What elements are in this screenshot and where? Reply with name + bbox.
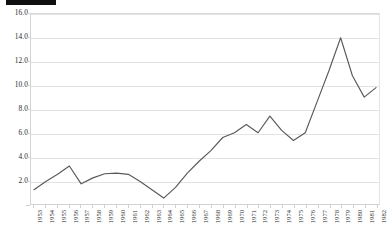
x-tick-mark [128, 205, 129, 208]
x-tick-mark [57, 205, 58, 208]
x-tick-label: 1969 [226, 210, 233, 223]
x-tick-label: 1958 [95, 210, 102, 223]
x-tick-mark [211, 205, 212, 208]
y-tick-label: - [0, 201, 28, 209]
x-tick-mark [377, 205, 378, 208]
x-axis: 1953195419551956195719581959196019611962… [30, 205, 380, 232]
y-tick-label: 12.0 [0, 57, 28, 65]
y-tick-label: 10.0 [0, 81, 28, 89]
x-tick-mark [282, 205, 283, 208]
x-tick-mark [247, 205, 248, 208]
x-tick-mark [187, 205, 188, 208]
x-tick-label: 1956 [72, 210, 79, 223]
x-tick-label: 1965 [178, 210, 185, 223]
x-tick-label: 1980 [356, 210, 363, 223]
x-tick-mark [365, 205, 366, 208]
x-tick-label: 1968 [214, 210, 221, 223]
x-tick-label: 1976 [309, 210, 316, 223]
x-tick-label: 1977 [321, 210, 328, 223]
x-tick-label: 1970 [238, 210, 245, 223]
x-tick-mark [92, 205, 93, 208]
x-tick-mark [116, 205, 117, 208]
x-tick-mark [258, 205, 259, 208]
y-tick-label: 16.0 [0, 9, 28, 17]
x-tick-mark [330, 205, 331, 208]
x-tick-mark [163, 205, 164, 208]
x-tick-label: 1954 [48, 210, 55, 223]
x-tick-label: 1959 [107, 210, 114, 223]
x-tick-mark [306, 205, 307, 208]
x-tick-label: 1972 [261, 210, 268, 223]
x-tick-mark [80, 205, 81, 208]
x-tick-label: 1957 [83, 210, 90, 223]
y-axis: -2.04.06.08.010.012.014.016.0 [0, 0, 28, 232]
data-series-line [31, 14, 379, 204]
x-tick-mark [294, 205, 295, 208]
x-tick-mark [152, 205, 153, 208]
x-tick-mark [104, 205, 105, 208]
y-tick-label: 14.0 [0, 33, 28, 41]
x-tick-mark [318, 205, 319, 208]
series-polyline [34, 38, 376, 198]
y-tick-label: 2.0 [0, 177, 28, 185]
x-tick-label: 1961 [131, 210, 138, 223]
x-tick-mark [33, 205, 34, 208]
x-tick-mark [175, 205, 176, 208]
x-tick-mark [140, 205, 141, 208]
x-tick-mark [270, 205, 271, 208]
x-tick-label: 1964 [166, 210, 173, 223]
x-tick-label: 1982 [380, 210, 387, 223]
y-tick-label: 8.0 [0, 105, 28, 113]
x-tick-label: 1978 [333, 210, 340, 223]
x-tick-label: 1974 [285, 210, 292, 223]
x-tick-label: 1979 [344, 210, 351, 223]
y-tick-label: 4.0 [0, 153, 28, 161]
x-tick-mark [223, 205, 224, 208]
line-chart: -2.04.06.08.010.012.014.016.0 1953195419… [0, 0, 390, 232]
x-tick-mark [235, 205, 236, 208]
plot-area [30, 13, 380, 205]
x-tick-label: 1955 [60, 210, 67, 223]
x-tick-label: 1966 [190, 210, 197, 223]
x-tick-mark [45, 205, 46, 208]
x-tick-label: 1975 [297, 210, 304, 223]
x-tick-label: 1953 [36, 210, 43, 223]
x-tick-mark [199, 205, 200, 208]
y-tick-label: 6.0 [0, 129, 28, 137]
x-tick-mark [341, 205, 342, 208]
x-tick-label: 1960 [119, 210, 126, 223]
x-tick-label: 1973 [273, 210, 280, 223]
x-tick-label: 1971 [250, 210, 257, 223]
x-tick-label: 1967 [202, 210, 209, 223]
x-tick-label: 1963 [155, 210, 162, 223]
x-tick-label: 1981 [368, 210, 375, 223]
x-tick-mark [353, 205, 354, 208]
x-tick-mark [69, 205, 70, 208]
x-tick-label: 1962 [143, 210, 150, 223]
